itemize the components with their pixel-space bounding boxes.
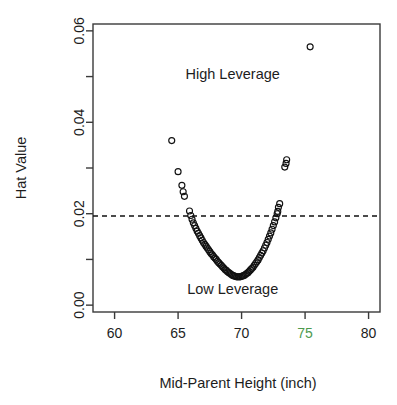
y-tick-label: 0.04	[71, 108, 87, 135]
y-tick-label: 0.02	[71, 200, 87, 227]
chart-container: 0.000.020.040.06 6065707580 High Leverag…	[0, 0, 397, 405]
x-axis-title: Mid-Parent Height (inch)	[159, 375, 316, 391]
x-tick-label: 75	[297, 325, 313, 341]
plot-background	[0, 0, 397, 405]
y-tick-label: 0.06	[71, 17, 87, 44]
y-tick-label: 0.00	[71, 291, 87, 318]
x-tick-label: 65	[170, 325, 186, 341]
annotation-label: High Leverage	[186, 66, 280, 82]
x-tick-label: 70	[234, 325, 250, 341]
y-axis-title: Hat Value	[13, 137, 29, 200]
x-tick-label: 80	[361, 325, 377, 341]
scatter-plot: 0.000.020.040.06 6065707580 High Leverag…	[0, 0, 397, 405]
annotation-label: Low Leverage	[187, 281, 278, 297]
x-tick-label: 60	[107, 325, 123, 341]
